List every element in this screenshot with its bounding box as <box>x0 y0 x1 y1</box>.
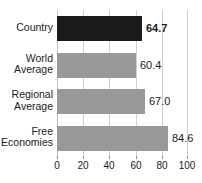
tick-label-60: 60 <box>130 160 141 172</box>
bar-row-regional-average: 67.0 <box>57 83 188 120</box>
plot-area: 64.7 60.4 67.0 84.6 <box>57 10 188 156</box>
category-label-regional-line2: Average <box>0 101 53 113</box>
category-label-country-line1: Country <box>0 22 53 34</box>
category-label-regional-average: Regional Average <box>0 89 53 112</box>
category-label-free-line2: Economies <box>0 137 53 149</box>
bar-row-country: 64.7 <box>57 10 188 47</box>
bar-value-world-average: 60.4 <box>136 53 161 78</box>
bar-chart: 64.7 60.4 67.0 84.6 Country World Averag… <box>0 0 202 183</box>
tick-mark-40 <box>109 156 110 159</box>
bar-country[interactable] <box>57 16 142 41</box>
tick-label-40: 40 <box>103 160 114 172</box>
chart-title <box>0 0 202 2</box>
bar-free-economies[interactable] <box>57 126 168 151</box>
category-label-free-economies: Free Economies <box>0 126 53 149</box>
tick-mark-60 <box>136 156 137 159</box>
tick-label-80: 80 <box>156 160 167 172</box>
category-label-world-line2: Average <box>0 64 53 76</box>
category-label-country: Country <box>0 22 53 34</box>
bar-row-world-average: 60.4 <box>57 47 188 84</box>
bar-value-free-economies: 84.6 <box>168 126 193 151</box>
tick-mark-100 <box>187 156 188 159</box>
category-label-regional-line1: Regional <box>0 89 53 101</box>
bar-value-country: 64.7 <box>142 16 167 41</box>
bar-world-average[interactable] <box>57 53 136 78</box>
x-axis: 0 20 40 60 80 100 <box>57 156 188 176</box>
tick-mark-0 <box>57 156 58 159</box>
tick-label-100: 100 <box>179 160 196 172</box>
bar-regional-average[interactable] <box>57 89 145 114</box>
category-label-world-average: World Average <box>0 53 53 76</box>
bar-value-regional-average: 67.0 <box>145 89 170 114</box>
tick-label-20: 20 <box>77 160 88 172</box>
tick-mark-20 <box>83 156 84 159</box>
bar-row-free-economies: 84.6 <box>57 120 188 157</box>
tick-label-0: 0 <box>54 160 60 172</box>
tick-mark-80 <box>162 156 163 159</box>
